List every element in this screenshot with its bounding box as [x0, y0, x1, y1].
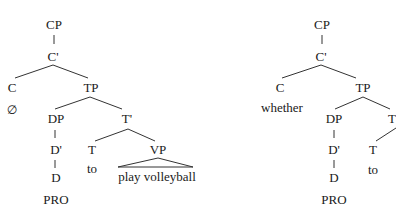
- node-dp: DP: [326, 112, 343, 126]
- node-d: D: [51, 171, 60, 185]
- node-whether: whether: [261, 101, 303, 115]
- node-t: T: [88, 143, 96, 157]
- node-t: T: [369, 143, 377, 157]
- node-t-bar: T: [388, 112, 396, 126]
- node-pro: PRO: [43, 193, 68, 207]
- node-t-bar: T': [122, 112, 132, 126]
- node-play-volleyball: play volleyball: [118, 170, 196, 184]
- node-c-bar: C': [315, 50, 326, 64]
- node-d-bar: D': [328, 143, 340, 157]
- node-pro: PRO: [321, 193, 346, 207]
- node-d: D: [329, 171, 338, 185]
- node-d-bar: D': [50, 143, 62, 157]
- node-to: to: [87, 162, 97, 176]
- node-cp: CP: [46, 18, 62, 32]
- node-to: to: [368, 163, 378, 177]
- node-tp: TP: [355, 81, 370, 95]
- node-dp: DP: [48, 112, 65, 126]
- node-vp: VP: [150, 143, 167, 157]
- node-c-empty: ∅: [7, 103, 17, 117]
- node-c-bar: C': [47, 50, 58, 64]
- node-cp: CP: [314, 18, 330, 32]
- node-c: C: [276, 81, 285, 95]
- node-tp: TP: [83, 81, 98, 95]
- syntax-tree-diagram: CP C' C ∅ TP DP T' D' D PRO T to VP play…: [0, 0, 396, 216]
- node-c: C: [8, 81, 17, 95]
